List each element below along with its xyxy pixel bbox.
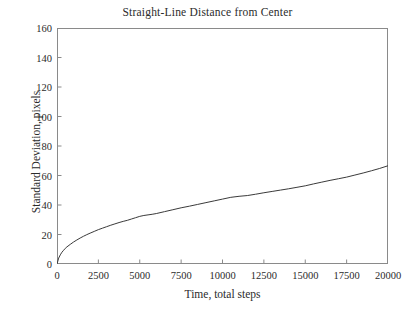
y-tick-label: 160 (12, 23, 52, 34)
y-axis-label: Standard Deviation, pixels (30, 34, 42, 270)
figure: Straight-Line Distance from Center 02040… (0, 0, 415, 317)
x-axis-label: Time, total steps (57, 288, 388, 300)
data-series-line (57, 166, 388, 264)
chart-title: Straight-Line Distance from Center (0, 6, 415, 18)
plot-canvas (57, 28, 388, 264)
tick-marks (57, 28, 388, 264)
x-tick-label: 20000 (358, 270, 415, 281)
